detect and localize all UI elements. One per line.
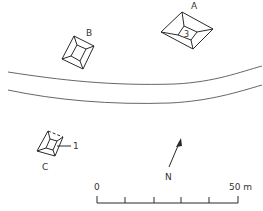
site-plan-diagram: 3 A B 1 C N 0 50 — [0, 0, 263, 211]
structure-c-callout-label: 1 — [73, 141, 79, 151]
scale-end-label: 50 m — [229, 182, 252, 192]
north-arrow: N — [165, 138, 182, 182]
road-edge-north — [8, 66, 262, 84]
structure-a-inner-label: 3 — [184, 30, 189, 39]
scale-bar: 0 50 m — [94, 182, 252, 203]
structure-c-label: C — [42, 162, 48, 172]
structure-b: B — [62, 28, 94, 69]
structure-b-outer — [62, 36, 94, 69]
north-label: N — [165, 172, 172, 182]
structure-b-label: B — [86, 28, 92, 38]
structure-c-inner — [46, 139, 57, 150]
structure-c-outer — [37, 131, 63, 156]
north-arrow-head-icon — [176, 138, 182, 147]
road-edge-south — [8, 85, 262, 103]
road — [8, 66, 262, 103]
structure-a: 3 A — [161, 1, 213, 49]
scale-start-label: 0 — [94, 182, 100, 192]
structure-b-inner — [71, 45, 86, 61]
structure-c: 1 C — [37, 131, 79, 172]
structure-c-dashed-edge — [48, 131, 63, 137]
structure-a-label: A — [191, 1, 198, 11]
